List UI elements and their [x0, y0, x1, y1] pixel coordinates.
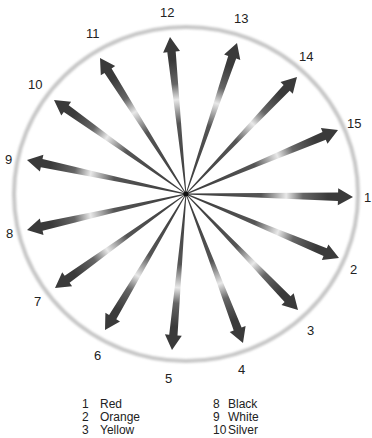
- center-hub: [184, 192, 189, 197]
- arrow-number-label: 2: [350, 262, 357, 277]
- arrow-number-label: 6: [94, 348, 101, 363]
- arrow-number-label: 10: [28, 77, 42, 92]
- arrow-number-label: 9: [5, 152, 12, 167]
- legend-number: 3: [82, 424, 100, 437]
- arrow-wheel-diagram: 123456789101112131415: [0, 0, 372, 395]
- legend-column-left: 1 Red 2 Orange 3 Yellow: [82, 398, 140, 437]
- arrow-12: [163, 37, 186, 194]
- arrow-number-label: 11: [86, 26, 100, 41]
- arrow-number-label: 13: [234, 11, 248, 26]
- arrow-number-label: 5: [165, 371, 172, 386]
- arrow-3: [186, 194, 298, 310]
- arrow-number-label: 14: [299, 49, 313, 64]
- arrow-number-label: 15: [347, 116, 361, 131]
- arrow-8: [27, 194, 186, 235]
- arrow-number-label: 3: [307, 323, 314, 338]
- arrow-1: [186, 188, 353, 205]
- arrow-14: [186, 77, 297, 194]
- legend-column-right: 8 Black 9 White 10 Silver: [213, 398, 259, 437]
- arrow-15: [186, 128, 338, 194]
- arrow-13: [186, 43, 241, 194]
- arrow-5: [165, 194, 187, 350]
- arrow-number-label: 1: [364, 190, 371, 205]
- legend-number: 10: [213, 424, 228, 437]
- arrow-group: [27, 37, 353, 350]
- legend-label: Silver: [228, 424, 258, 437]
- arrow-number-label: 8: [6, 226, 13, 241]
- color-legend: 1 Red 2 Orange 3 Yellow 8 Black 9 White …: [82, 398, 322, 438]
- arrow-9: [27, 155, 186, 195]
- legend-item: 10 Silver: [213, 424, 259, 437]
- legend-label: Yellow: [100, 424, 134, 437]
- arrow-number-label: 7: [34, 294, 41, 309]
- arrow-number-label: 12: [160, 5, 174, 20]
- arrow-number-label: 4: [238, 362, 245, 377]
- legend-item: 3 Yellow: [82, 424, 140, 437]
